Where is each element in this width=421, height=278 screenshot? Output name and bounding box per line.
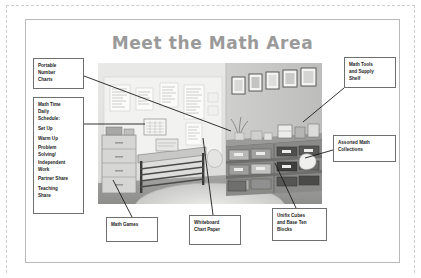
callout-math-time-daily-schedule[interactable]: Math Time Daily Schedule: Set Up Warm Up… [33,97,84,214]
schedule-item-set-up: Set Up [38,125,79,132]
callout-line-1: Unifix Cubes [277,212,322,219]
schedule-item-problem-line-4: Work [38,166,79,173]
callout-line-2: and Base Ten [277,219,322,226]
schedule-item-teaching-share: Teaching Share [38,185,79,199]
schedule-item-problem-solving: Problem Solving/ Independent Work [38,144,79,172]
page-title: Meet the Math Area [25,33,400,53]
slide-canvas: Meet the Math Area [0,0,421,278]
page-dashed-border-top [6,5,415,6]
callout-whiteboard-chart-paper[interactable]: Whiteboard Chart Paper [189,215,241,245]
classroom-math-area-photo [98,63,322,204]
callout-line-3: Blocks [277,226,322,233]
callout-math-games[interactable]: Math Games [106,217,158,242]
callout-line-3: Shelf [349,75,391,82]
schedule-header-line-3: Schedule: [38,115,79,122]
callout-line-2: Number [38,69,79,76]
schedule-item-warm-up: Warm Up [38,135,79,142]
page-dashed-border-right [414,5,415,273]
callout-line-3: Charts [38,76,79,83]
callout-line-2: Chart Paper [194,226,236,233]
page-dashed-border-left [6,5,7,273]
schedule-item-problem-line-2: Solving/ [38,151,79,158]
schedule-item-teaching-line-1: Teaching [38,185,79,192]
callout-line-2: Collections [338,146,391,153]
callout-line-1: Assorted Math [338,139,391,146]
callout-line-1: Portable [38,62,79,69]
callout-portable-number-charts[interactable]: Portable Number Charts [33,58,84,89]
schedule-item-teaching-line-2: Share [38,192,79,199]
callout-math-tools-and-supply-shelf[interactable]: Math Tools and Supply Shelf [344,57,396,88]
schedule-header-line-2: Daily [38,108,79,115]
schedule-item-problem-line-3: Independent [38,159,79,166]
callout-line-1: Math Tools [349,61,391,68]
schedule-item-problem-line-1: Problem [38,144,79,151]
schedule-item-partner-share: Partner Share [38,175,79,182]
callout-unifix-cubes-and-base-ten-blocks[interactable]: Unifix Cubes and Base Ten Blocks [272,208,327,241]
callout-assorted-math-collections[interactable]: Assorted Math Collections [333,135,396,162]
callout-line-2: and Supply [349,68,391,75]
callout-line-1: Math Games [111,221,153,228]
schedule-header-line-1: Math Time [38,101,79,108]
callout-line-1: Whiteboard [194,219,236,226]
